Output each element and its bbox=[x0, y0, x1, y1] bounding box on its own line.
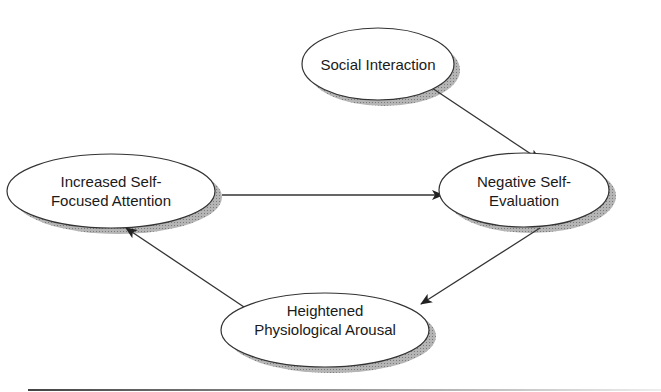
edge-social-to-evaluation bbox=[423, 82, 540, 160]
label-increased-self-focused-attention: Increased Self- Focused Attention bbox=[15, 172, 207, 210]
edge-arousal-to-attention bbox=[126, 228, 244, 307]
label-line: Focused Attention bbox=[15, 191, 207, 210]
label-line: Negative Self- bbox=[439, 172, 609, 191]
label-line: Evaluation bbox=[439, 191, 609, 210]
label-line: Social Interaction bbox=[302, 55, 454, 74]
label-line: Heightened bbox=[221, 301, 429, 320]
label-line: Physiological Arousal bbox=[221, 320, 429, 339]
bottom-rule bbox=[28, 389, 661, 391]
label-heightened-physiological-arousal: Heightened Physiological Arousal bbox=[221, 301, 429, 339]
label-social-interaction: Social Interaction bbox=[302, 55, 454, 74]
label-negative-self-evaluation: Negative Self- Evaluation bbox=[439, 172, 609, 210]
label-line: Increased Self- bbox=[15, 172, 207, 191]
edge-evaluation-to-arousal bbox=[421, 228, 540, 304]
